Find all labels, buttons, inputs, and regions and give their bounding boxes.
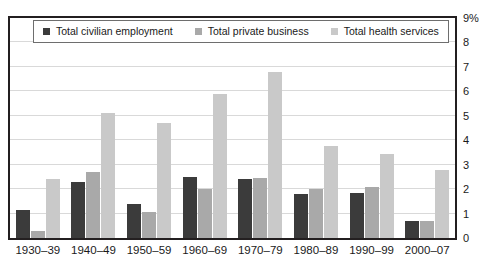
bar [142,212,156,238]
bar [309,189,323,238]
x-axis-tick-label: 1950–59 [127,245,172,257]
y-axis-tick-label: 2 [463,184,469,195]
legend-item: Total private business [195,26,309,37]
y-axis-tick-label: 4 [463,135,469,146]
y-axis-tick-label: 7 [463,61,469,72]
y-axis-tick-label: 6 [463,86,469,97]
bar [405,221,419,238]
bar [16,210,30,238]
bar [365,187,379,238]
legend-item: Total health services [331,26,439,37]
y-axis-tick-label: 8 [463,37,469,48]
bar [420,221,434,238]
x-axis-tick-label: 1980–89 [294,245,339,257]
bar [101,113,115,238]
legend-label: Total civilian employment [56,26,173,37]
bar [198,189,212,238]
bar [31,231,45,238]
grouped-bar-chart: Total civilian employmentTotal private b… [0,0,493,264]
legend-swatch-icon [331,28,338,35]
bar [380,154,394,238]
x-axis-tick-label: 1990–99 [349,245,394,257]
bar-group [127,18,171,238]
bar-group [183,18,227,238]
cut-off-caption [0,0,457,5]
bar [127,204,141,238]
y-axis-tick-label: 3 [463,159,469,170]
bars-layer [10,18,455,238]
bar-group [16,18,60,238]
bar [294,194,308,238]
x-axis-tick-label: 1960–69 [182,245,227,257]
bar [183,177,197,238]
bar [86,172,100,238]
legend-label: Total private business [208,26,309,37]
bar-group [350,18,394,238]
bar [213,94,227,238]
bar-group [71,18,115,238]
y-axis-tick-label: 5 [463,110,469,121]
x-axis-tick-label: 1930–39 [15,245,60,257]
legend-swatch-icon [43,28,50,35]
legend-label: Total health services [344,26,439,37]
x-axis-tick-label: 1970–79 [238,245,283,257]
bar [46,179,60,238]
plot-area [8,16,457,240]
legend-item: Total civilian employment [43,26,173,37]
y-axis-tick-label: 9% [463,13,479,24]
bar [324,146,338,238]
chart-legend: Total civilian employmentTotal private b… [33,20,449,43]
x-axis-tick-label: 2000–07 [405,245,450,257]
x-axis-tick-labels: 1930–391940–491950–591960–691970–791980–… [8,245,457,263]
bar [71,182,85,238]
bar [157,123,171,238]
bar [253,178,267,238]
y-axis-tick-label: 0 [463,233,469,244]
bar [238,179,252,238]
bar-group [238,18,282,238]
bar-group [405,18,449,238]
bar [350,193,364,238]
bar-group [294,18,338,238]
bar [268,72,282,238]
legend-swatch-icon [195,28,202,35]
bar [435,170,449,238]
x-axis-tick-label: 1940–49 [71,245,116,257]
y-axis-tick-labels: 0123456789% [463,0,493,264]
y-axis-tick-label: 1 [463,208,469,219]
